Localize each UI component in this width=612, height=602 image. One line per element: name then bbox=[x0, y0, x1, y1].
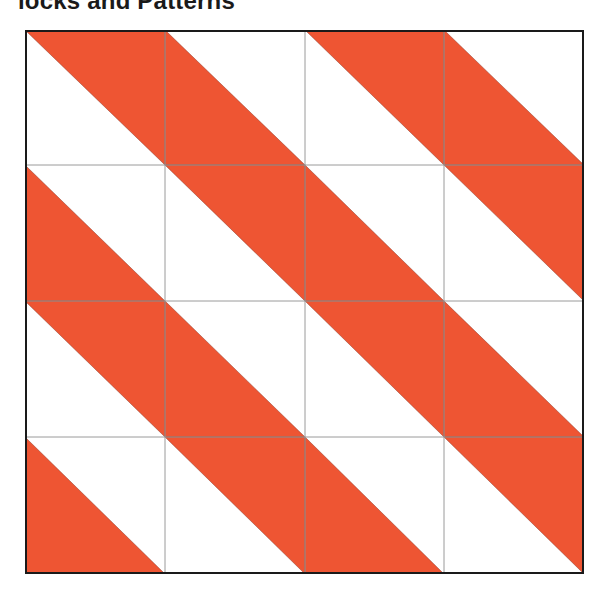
quilt-pattern-svg bbox=[25, 30, 584, 574]
page-title: locks and Patterns bbox=[18, 0, 235, 15]
half-square-triangle-quilt-grid bbox=[25, 30, 584, 574]
